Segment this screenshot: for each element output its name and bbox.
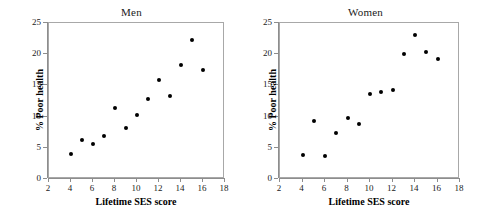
data-point	[379, 90, 383, 94]
x-axis-tick	[92, 178, 93, 182]
x-axis-tick	[224, 178, 225, 182]
y-axis-men: 0510152025	[47, 22, 48, 178]
x-axis-tick-label: 10	[365, 183, 374, 193]
x-axis-tick	[347, 178, 348, 182]
x-axis-tick-label: 2	[46, 183, 51, 193]
y-axis-tick	[43, 147, 47, 148]
x-axis-tick	[414, 178, 415, 182]
data-point	[391, 88, 395, 92]
figure-root: Men 0510152025 24681012141618 Lifetime S…	[0, 0, 478, 222]
y-axis-tick-label: 25	[263, 17, 272, 27]
x-axis-men: 24681012141618	[48, 178, 224, 179]
data-point	[301, 153, 305, 157]
data-point	[179, 63, 183, 67]
x-axis-tick-label: 2	[277, 183, 282, 193]
data-point	[201, 68, 205, 72]
data-point	[436, 57, 440, 61]
scatter-points-men	[49, 23, 223, 177]
x-axis-tick	[158, 178, 159, 182]
plot-area-women	[279, 22, 459, 178]
y-axis-tick	[274, 53, 278, 54]
x-axis-tick-label: 10	[132, 183, 141, 193]
plot-area-men	[48, 22, 224, 178]
data-point	[168, 94, 172, 98]
x-axis-tick-label: 18	[455, 183, 464, 193]
panel-women: Women 0510152025 24681012141618 Lifetime…	[239, 0, 478, 222]
x-axis-tick	[136, 178, 137, 182]
y-axis-tick-label: 5	[37, 142, 42, 152]
y-axis-title-women: % Poor health	[267, 69, 278, 131]
data-point	[312, 119, 316, 123]
data-point	[323, 154, 327, 158]
y-axis-tick-label: 0	[268, 173, 273, 183]
x-axis-tick-label: 14	[410, 183, 419, 193]
data-point	[368, 92, 372, 96]
data-point	[357, 122, 361, 126]
y-axis-tick	[43, 53, 47, 54]
x-axis-tick-label: 4	[68, 183, 73, 193]
x-axis-tick-label: 16	[198, 183, 207, 193]
data-point	[146, 97, 150, 101]
x-axis-tick-label: 6	[322, 183, 327, 193]
y-axis-tick-label: 25	[32, 17, 41, 27]
y-axis-tick	[43, 22, 47, 23]
x-axis-tick	[114, 178, 115, 182]
y-axis-tick-label: 20	[263, 48, 272, 58]
x-axis-tick-label: 8	[344, 183, 349, 193]
x-axis-tick	[324, 178, 325, 182]
data-point	[113, 106, 117, 110]
y-axis-title-men: % Poor health	[34, 69, 45, 131]
y-axis-tick	[274, 147, 278, 148]
data-point	[402, 52, 406, 56]
x-axis-tick	[437, 178, 438, 182]
x-axis-tick-label: 16	[432, 183, 441, 193]
x-axis-tick	[369, 178, 370, 182]
x-axis-tick	[180, 178, 181, 182]
x-axis-tick-label: 12	[154, 183, 163, 193]
x-axis-tick-label: 12	[387, 183, 396, 193]
data-point	[334, 131, 338, 135]
x-axis-tick-label: 14	[176, 183, 185, 193]
x-axis-title-women: Lifetime SES score	[279, 196, 459, 207]
data-point	[69, 152, 73, 156]
y-axis-tick	[274, 178, 278, 179]
panel-men: Men 0510152025 24681012141618 Lifetime S…	[0, 0, 239, 222]
x-axis-tick	[202, 178, 203, 182]
data-point	[124, 126, 128, 130]
x-axis-tick-label: 8	[112, 183, 117, 193]
y-axis-tick-label: 5	[268, 142, 273, 152]
scatter-points-women	[280, 23, 458, 177]
y-axis-tick	[274, 22, 278, 23]
data-point	[413, 33, 417, 37]
x-axis-title-men: Lifetime SES score	[48, 196, 224, 207]
x-axis-tick	[279, 178, 280, 182]
data-point	[91, 142, 95, 146]
x-axis-tick-label: 4	[299, 183, 304, 193]
data-point	[424, 50, 428, 54]
x-axis-tick	[459, 178, 460, 182]
panel-title-women: Women	[239, 6, 478, 18]
y-axis-tick-label: 0	[37, 173, 42, 183]
x-axis-women: 24681012141618	[279, 178, 459, 179]
x-axis-tick	[70, 178, 71, 182]
y-axis-tick	[43, 178, 47, 179]
data-point	[190, 38, 194, 42]
data-point	[102, 134, 106, 138]
x-axis-tick	[392, 178, 393, 182]
y-axis-women: 0510152025	[278, 22, 279, 178]
data-point	[80, 138, 84, 142]
data-point	[157, 78, 161, 82]
data-point	[135, 113, 139, 117]
x-axis-tick-label: 6	[90, 183, 95, 193]
y-axis-tick-label: 20	[32, 48, 41, 58]
x-axis-tick-label: 18	[220, 183, 229, 193]
data-point	[346, 116, 350, 120]
x-axis-tick	[48, 178, 49, 182]
x-axis-tick	[302, 178, 303, 182]
